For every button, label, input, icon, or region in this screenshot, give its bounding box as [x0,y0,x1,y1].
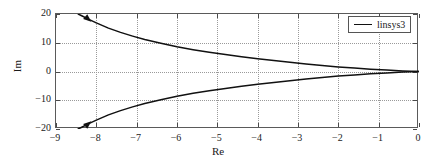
linsys3-lower-branch [78,72,419,130]
tick-mark-y [413,129,417,130]
tick-mark-x [419,14,420,18]
y-tick-label: −10 [23,94,51,104]
legend-label-linsys3: linsys3 [377,20,405,30]
y-tick-label: 20 [23,8,51,18]
y-tick-label: 10 [23,37,51,47]
x-tick-label: −6 [163,133,189,143]
y-axis-title: Im [11,53,23,79]
arrow-lower-marker [83,119,93,129]
x-tick-label: −9 [42,133,68,143]
x-tick-label: −4 [244,133,270,143]
x-tick-label: −5 [203,133,229,143]
x-tick-label: −7 [123,133,149,143]
arrow-upper-marker [83,14,93,24]
x-tick-label: −1 [365,133,391,143]
x-tick-label: −2 [324,133,350,143]
x-tick-label: 0 [405,133,431,143]
y-tick-label: 0 [23,66,51,76]
x-axis-title: Re [0,145,436,157]
tick-mark-y [56,129,60,130]
tick-mark-x [419,123,420,127]
x-tick-label: −8 [82,133,108,143]
x-tick-label: −3 [284,133,310,143]
root-locus-figure: −9−8−7−6−5−4−3−2−10 −20−1001020 Re Im li… [0,0,436,162]
legend[interactable]: linsys3 [348,16,411,33]
y-tick-label: −20 [23,123,51,133]
legend-line-sample-icon [354,24,372,25]
